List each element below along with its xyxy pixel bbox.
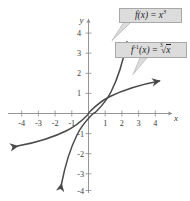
- callout-tail-cube-root: [133, 58, 147, 75]
- function-label-cubic: f(x) = x3: [119, 8, 182, 23]
- radical-symbol: 3√x: [160, 46, 171, 55]
- callout-tails: [0, 0, 190, 201]
- callout-tail-cubic: [112, 22, 131, 40]
- function-label-cubic-text: f(x) = x3: [135, 9, 166, 21]
- function-label-cube-root: f-1(x) = 3√x: [115, 42, 187, 58]
- graph-figure: -4 -3 -2 -1 1 2 3 4 4 3 2 1 -1 -2 -3 -4 …: [0, 0, 190, 201]
- function-label-cube-root-text: f-1(x) = 3√x: [131, 44, 171, 56]
